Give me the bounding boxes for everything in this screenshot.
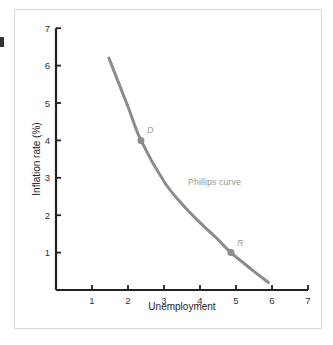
point-d-label: D bbox=[147, 125, 154, 135]
x-tick-label: 1 bbox=[89, 295, 94, 306]
x-axis-title: Unemployment bbox=[148, 301, 215, 312]
point-d-marker bbox=[137, 137, 144, 144]
y-tick-label: 7 bbox=[45, 23, 50, 34]
y-tick-label: 2 bbox=[45, 210, 50, 221]
ticks: 12345671234567 bbox=[45, 23, 311, 306]
data-points: DR bbox=[137, 125, 244, 256]
y-tick-label: 6 bbox=[45, 60, 50, 71]
x-tick-label: 7 bbox=[305, 295, 310, 306]
y-tick-label: 1 bbox=[45, 247, 50, 258]
y-tick-label: 5 bbox=[45, 98, 50, 109]
y-tick-label: 3 bbox=[45, 172, 50, 183]
point-r-label: R bbox=[237, 238, 244, 248]
y-tick-label: 4 bbox=[45, 135, 50, 146]
point-r-marker bbox=[227, 249, 234, 256]
x-tick-label: 2 bbox=[125, 295, 130, 306]
curve-annotation: Phillips curve bbox=[188, 177, 241, 187]
phillips-curve-chart: 12345671234567 DR Phillips curve Unemplo… bbox=[0, 0, 333, 345]
phillips-curve-line bbox=[109, 58, 268, 282]
x-tick-label: 6 bbox=[269, 295, 274, 306]
axes bbox=[56, 28, 308, 290]
y-axis-title: Inflation rate (%) bbox=[31, 122, 42, 195]
x-tick-label: 5 bbox=[233, 295, 238, 306]
